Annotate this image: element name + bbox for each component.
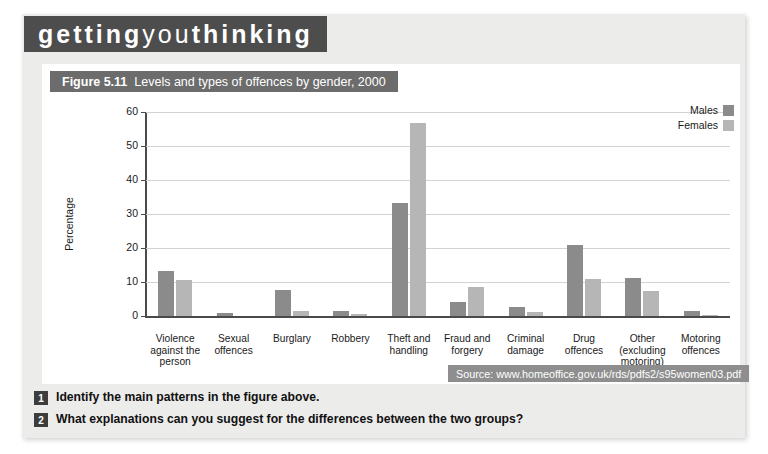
bar-females: [468, 287, 484, 316]
banner-text-getting: getting: [38, 22, 142, 47]
x-category-label: Sexualoffences: [201, 333, 265, 356]
legend-item-females: Females: [678, 119, 734, 131]
bar-males: [567, 245, 583, 316]
y-tick-mark: [141, 248, 146, 250]
y-axis-ticks: 0102030405060: [102, 112, 138, 316]
grid-line: [146, 180, 730, 181]
banner-text-you: you: [142, 22, 191, 47]
question-text: What explanations can you suggest for th…: [56, 412, 523, 426]
y-axis-label: Percentage: [63, 169, 75, 279]
questions-list: 1 Identify the main patterns in the figu…: [34, 390, 734, 434]
y-tick-mark: [141, 180, 146, 182]
legend-label-males: Males: [690, 104, 718, 116]
x-category-label: Violenceagainst theperson: [143, 333, 207, 368]
chart-legend: Males Females: [678, 104, 734, 131]
bar-males: [158, 271, 174, 316]
chart-plot-area: Percentage 0102030405060 Violenceagainst…: [42, 98, 740, 384]
figure-caption-bar: Figure 5.11 Levels and types of offences…: [50, 71, 398, 92]
y-tick-mark: [141, 112, 146, 114]
bar-females: [176, 280, 192, 316]
x-category-label: Burglary: [260, 333, 324, 345]
bar-females: [293, 311, 309, 316]
y-tick-mark: [141, 316, 146, 318]
legend-label-females: Females: [678, 119, 718, 131]
x-category-label: Fraud andforgery: [435, 333, 499, 356]
grid-line: [146, 146, 730, 147]
question-text: Identify the main patterns in the figure…: [56, 390, 319, 404]
bar-females: [410, 123, 426, 316]
x-category-label: Criminaldamage: [493, 333, 557, 356]
bar-males: [684, 311, 700, 316]
y-tick-mark: [141, 146, 146, 148]
figure-title: Levels and types of offences by gender, …: [134, 75, 385, 89]
grid-line: [146, 214, 730, 215]
bar-males: [217, 313, 233, 316]
x-category-label: Motoringoffences: [669, 333, 733, 356]
x-axis-line: [145, 316, 730, 318]
question-item: 1 Identify the main patterns in the figu…: [34, 390, 734, 405]
bar-males: [392, 203, 408, 316]
y-tick-label: 20: [108, 241, 138, 253]
grid-line: [146, 282, 730, 283]
bar-females: [351, 314, 367, 316]
y-tick-label: 40: [108, 173, 138, 185]
y-tick-label: 50: [108, 139, 138, 151]
y-tick-label: 0: [108, 309, 138, 321]
bar-males: [450, 302, 466, 316]
question-number-badge: 1: [34, 391, 48, 405]
banner-text-thinking: thinking: [192, 22, 313, 47]
grid-line: [146, 112, 730, 113]
bar-males: [333, 311, 349, 316]
bar-males: [275, 290, 291, 316]
bar-females: [643, 291, 659, 316]
bar-females: [527, 312, 543, 316]
legend-item-males: Males: [690, 104, 734, 116]
legend-swatch-females: [723, 120, 734, 131]
chart-canvas: Violenceagainst thepersonSexualoffencesB…: [146, 112, 730, 316]
y-tick-label: 30: [108, 207, 138, 219]
source-text: Source: www.homeoffice.gov.uk/rds/pdfs2/…: [456, 368, 741, 380]
y-tick-label: 10: [108, 275, 138, 287]
bar-males: [509, 307, 525, 316]
y-tick-mark: [141, 282, 146, 284]
x-category-label: Other(excludingmotoring): [610, 333, 674, 368]
source-bar: Source: www.homeoffice.gov.uk/rds/pdfs2/…: [448, 365, 749, 382]
x-category-label: Robbery: [318, 333, 382, 345]
question-number-badge: 2: [34, 413, 48, 427]
question-item: 2 What explanations can you suggest for …: [34, 412, 734, 427]
figure-card: Figure 5.11 Levels and types of offences…: [42, 64, 740, 384]
y-tick-label: 60: [108, 105, 138, 117]
bar-males: [625, 278, 641, 316]
grid-line: [146, 248, 730, 249]
y-tick-mark: [141, 214, 146, 216]
x-category-label: Drugoffences: [552, 333, 616, 356]
figure-number: Figure 5.11: [62, 75, 127, 89]
section-banner: gettingyouthinking: [24, 16, 327, 52]
bar-females: [702, 315, 718, 316]
bar-females: [585, 279, 601, 316]
legend-swatch-males: [723, 105, 734, 116]
x-category-label: Theft andhandling: [377, 333, 441, 356]
